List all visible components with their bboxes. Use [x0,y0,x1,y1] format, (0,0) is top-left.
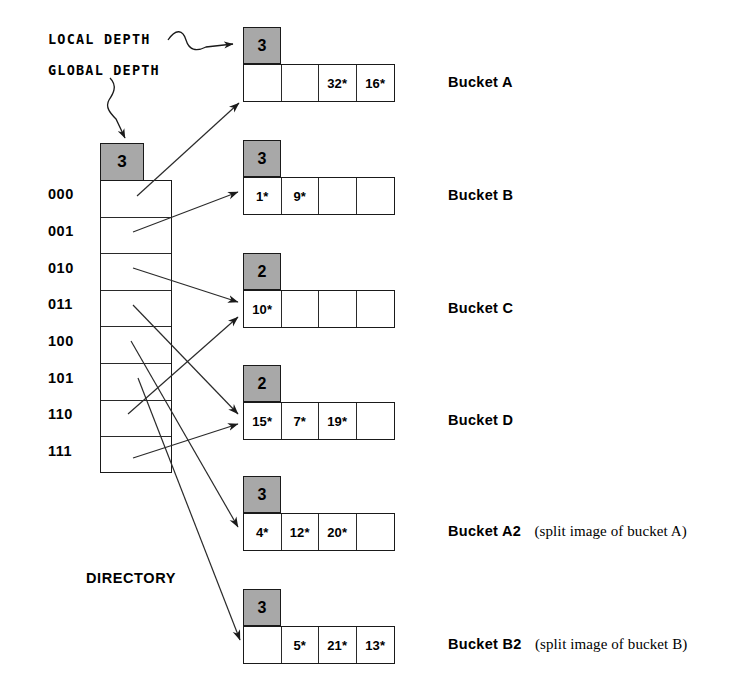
bucket-b2-slot-3: 13* [357,627,395,663]
bucket-b2-name-text: Bucket B2 [448,636,522,652]
bucket-b2-slots: 5* 21* 13* [243,626,395,664]
bucket-a-local-depth: 3 [243,27,281,64]
directory-index-3: 011 [48,296,98,312]
bucket-a2-slot-3 [357,514,395,550]
bucket-c-name-text: Bucket C [448,300,513,316]
directory-cell-001[interactable] [101,218,171,255]
bucket-a2-slot-2: 20* [319,514,357,550]
directory-index-6: 110 [48,406,98,422]
bucket-b2-note: (split image of bucket B) [535,636,687,652]
directory-index-7: 111 [48,443,98,459]
local-depth-pointer [168,32,233,50]
bucket-a-slot-2: 32* [319,65,357,101]
bucket-b-local-depth: 3 [243,140,281,177]
bucket-d-slot-0: 15* [244,403,282,439]
bucket-b2-slot-2: 21* [319,627,357,663]
directory-caption: DIRECTORY [86,570,176,586]
bucket-d-slots: 15* 7* 19* [243,402,395,440]
directory-table [100,180,172,473]
directory-cell-100[interactable] [101,327,171,364]
directory-index-0: 000 [48,186,98,202]
bucket-b-slot-1: 9* [282,178,320,214]
bucket-b-local-depth-value: 3 [258,150,267,168]
bucket-a2-local-depth-value: 3 [258,486,267,504]
bucket-d-slot-1: 7* [282,403,320,439]
bucket-c-name: Bucket C [448,300,513,316]
directory-cell-011[interactable] [101,291,171,328]
bucket-b-slot-3 [357,178,395,214]
directory-cell-111[interactable] [101,437,171,474]
bucket-b-slot-0: 1* [244,178,282,214]
global-depth-label: GLOBAL DEPTH [48,62,160,78]
bucket-c-slot-0: 10* [244,291,282,327]
directory-cell-110[interactable] [101,401,171,438]
bucket-d-name-text: Bucket D [448,412,513,428]
bucket-a2-name: Bucket A2 (split image of bucket A) [448,523,687,540]
directory-index-5: 101 [48,370,98,386]
bucket-b2-local-depth: 3 [243,589,281,626]
bucket-a-slots: 32* 16* [243,64,395,102]
local-depth-label: LOCAL DEPTH [48,31,151,47]
bucket-a-slot-1 [282,65,320,101]
bucket-b-slot-2 [319,178,357,214]
bucket-a-slot-3: 16* [357,65,395,101]
bucket-d-local-depth-value: 2 [258,375,267,393]
bucket-c-slots: 10* [243,290,395,328]
directory-cell-000[interactable] [101,181,171,218]
bucket-d-slot-2: 19* [319,403,357,439]
bucket-a-name: Bucket A [448,74,513,90]
bucket-b2-slot-1: 5* [282,627,320,663]
bucket-c-slot-2 [319,291,357,327]
bucket-a2-slots: 4* 12* 20* [243,513,395,551]
bucket-a2-note: (split image of bucket A) [534,523,686,539]
bucket-b-name-text: Bucket B [448,187,513,203]
bucket-a2-name-text: Bucket A2 [448,523,521,539]
bucket-a2-slot-0: 4* [244,514,282,550]
bucket-a2-slot-1: 12* [282,514,320,550]
bucket-d-name: Bucket D [448,412,513,428]
directory-global-depth-value: 3 [117,152,126,172]
bucket-d-slot-3 [357,403,395,439]
bucket-b2-local-depth-value: 3 [258,599,267,617]
diagram-canvas: LOCAL DEPTH GLOBAL DEPTH 3 000 001 010 0… [0,0,747,692]
directory-index-4: 100 [48,333,98,349]
directory-global-depth-box: 3 [100,143,144,181]
directory-cell-101[interactable] [101,364,171,401]
bucket-c-local-depth-value: 2 [258,263,267,281]
bucket-a-name-text: Bucket A [448,74,513,90]
bucket-b-name: Bucket B [448,187,513,203]
directory-index-1: 001 [48,223,98,239]
bucket-b2-name: Bucket B2 (split image of bucket B) [448,636,687,653]
bucket-a-local-depth-value: 3 [258,37,267,55]
global-depth-pointer [108,78,125,138]
directory-cell-010[interactable] [101,254,171,291]
bucket-b2-slot-0 [244,627,282,663]
bucket-a-slot-0 [244,65,282,101]
bucket-c-local-depth: 2 [243,253,281,290]
bucket-b-slots: 1* 9* [243,177,395,215]
directory-index-2: 010 [48,260,98,276]
bucket-c-slot-1 [282,291,320,327]
bucket-c-slot-3 [357,291,395,327]
bucket-d-local-depth: 2 [243,365,281,402]
bucket-a2-local-depth: 3 [243,476,281,513]
